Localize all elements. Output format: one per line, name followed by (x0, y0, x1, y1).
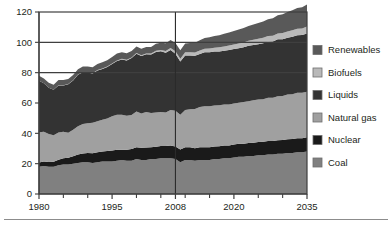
legend-swatch (313, 46, 322, 55)
legend-label: Coal (328, 157, 348, 168)
legend-swatch (313, 91, 322, 100)
legend-item-nuclear: Nuclear (313, 134, 361, 145)
legend-swatch (313, 113, 322, 122)
bottom-divider-rule (4, 219, 388, 220)
y-tick-label-80: 80 (21, 67, 32, 78)
legend-label: Renewables (328, 44, 381, 55)
legend-item-renewables: Renewables (313, 44, 381, 55)
y-tick-label-120: 120 (16, 6, 32, 17)
stacked-area-chart: 020406080100120 19801995200820202035 Ren… (0, 0, 392, 230)
x-tick-label-1980: 1980 (28, 201, 49, 212)
legend-label: Liquids (328, 89, 358, 100)
figure: 020406080100120 19801995200820202035 Ren… (0, 0, 392, 230)
y-tick-label-40: 40 (21, 128, 32, 139)
y-tick-label-20: 20 (21, 158, 32, 169)
y-tick-label-60: 60 (21, 97, 32, 108)
legend-item-liquids: Liquids (313, 89, 358, 100)
legend: RenewablesBiofuelsLiquidsNatural gasNucl… (313, 44, 381, 168)
y-tick-label-0: 0 (27, 188, 32, 199)
legend-item-biofuels: Biofuels (313, 67, 362, 78)
x-axis: 19801995200820202035 (28, 194, 317, 212)
y-axis: 020406080100120 (16, 6, 39, 199)
legend-label: Nuclear (328, 134, 361, 145)
x-tick-label-2020: 2020 (223, 201, 244, 212)
y-tick-label-100: 100 (16, 37, 32, 48)
legend-label: Natural gas (328, 112, 377, 123)
legend-swatch (313, 68, 322, 77)
legend-swatch (313, 136, 322, 145)
legend-item-coal: Coal (313, 157, 348, 168)
legend-swatch (313, 158, 322, 167)
legend-item-natural-gas: Natural gas (313, 112, 377, 123)
plot-area (39, 5, 307, 194)
legend-label: Biofuels (328, 67, 362, 78)
x-tick-label-1995: 1995 (102, 201, 123, 212)
x-tick-label-2008: 2008 (165, 201, 186, 212)
x-tick-label-2035: 2035 (296, 201, 317, 212)
